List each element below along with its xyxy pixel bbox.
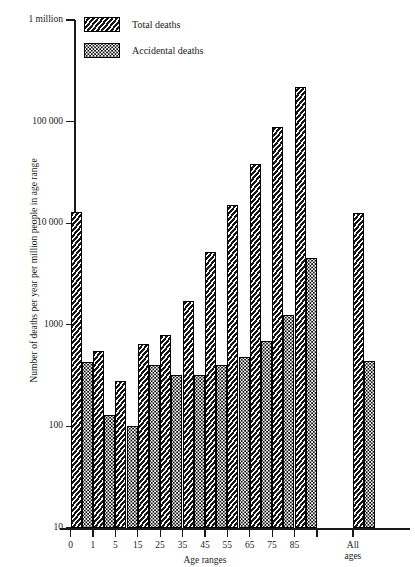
x-axis-tick-label-line: ages <box>339 551 367 562</box>
bar-total-deaths-5 <box>115 381 126 528</box>
bar-accidental-deaths-45 <box>216 365 227 528</box>
x-axis-tick-label-line: 85 <box>281 540 309 551</box>
bar-accidental-deaths-All-ages <box>364 361 375 528</box>
bar-accidental-deaths-25 <box>171 375 182 528</box>
bar-total-deaths-45 <box>205 252 216 528</box>
x-axis-tick-label: 85 <box>281 540 309 551</box>
x-axis-title: Age ranges <box>145 555 265 565</box>
bar-accidental-deaths-0 <box>82 362 93 528</box>
x-axis-tick-label: Allages <box>339 540 367 562</box>
bar-total-deaths-75 <box>272 127 283 528</box>
x-axis-tick <box>352 529 353 537</box>
bar-total-deaths-1 <box>93 351 104 528</box>
bar-total-deaths-85 <box>295 87 306 528</box>
x-axis-tick <box>115 529 116 537</box>
bar-total-deaths-55 <box>227 205 238 528</box>
bar-accidental-deaths-75 <box>283 315 294 528</box>
x-axis-tick <box>272 529 273 537</box>
bar-total-deaths-0 <box>71 212 82 528</box>
x-axis-tick <box>227 529 228 537</box>
bar-accidental-deaths-55 <box>239 357 250 528</box>
bar-total-deaths-65 <box>250 164 261 528</box>
bar-total-deaths-35 <box>183 301 194 528</box>
bar-accidental-deaths-85 <box>306 258 317 528</box>
x-axis-tick <box>92 529 93 537</box>
x-axis-tick <box>249 529 250 537</box>
bar-accidental-deaths-35 <box>194 375 205 528</box>
x-axis-tick-label-line: All <box>339 540 367 551</box>
x-axis-tick <box>70 529 71 537</box>
bars-layer <box>0 0 415 567</box>
bar-total-deaths-All-ages <box>353 213 364 528</box>
bar-accidental-deaths-15 <box>149 365 160 528</box>
x-axis-tick <box>204 529 205 537</box>
bar-total-deaths-15 <box>138 344 149 528</box>
x-axis-line <box>60 528 410 530</box>
bar-accidental-deaths-5 <box>127 426 138 528</box>
bar-accidental-deaths-65 <box>261 341 272 528</box>
chart-root: Total deaths Accidental deaths 101001000… <box>0 0 415 567</box>
x-axis-tick <box>137 529 138 537</box>
x-axis-tick <box>316 529 317 537</box>
bar-total-deaths-25 <box>160 335 171 528</box>
x-axis-tick <box>160 529 161 537</box>
x-axis-tick <box>294 529 295 537</box>
bar-accidental-deaths-1 <box>104 415 115 528</box>
x-axis-tick <box>182 529 183 537</box>
